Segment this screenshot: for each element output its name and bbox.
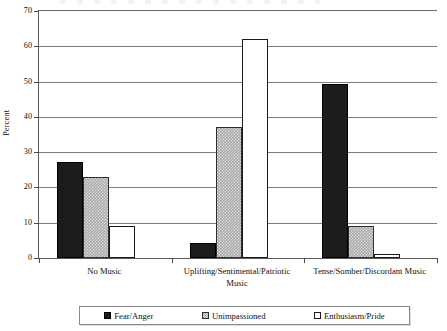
y-axis-tick-label: 0 <box>10 254 32 262</box>
x-axis-label-line: Tense/Somber/Discordant Music <box>289 266 447 278</box>
legend-label: Fear/Anger <box>114 311 153 321</box>
x-axis-tick <box>304 258 305 263</box>
y-axis-tick-label: 50 <box>10 78 32 86</box>
y-axis-tick-label-wrap: 70 <box>10 11 32 12</box>
bar-3-3 <box>374 254 400 258</box>
legend-item-3[interactable]: Enthusiasm/Pride <box>314 311 385 321</box>
y-axis-tick-label-wrap: 20 <box>10 187 32 188</box>
legend-label: Enthusiasm/Pride <box>324 311 385 321</box>
y-axis-tick <box>34 11 39 12</box>
gridline <box>39 117 437 118</box>
legend-item-2[interactable]: Unimpassioned <box>202 311 265 321</box>
y-axis-tick <box>34 117 39 118</box>
x-axis-label-line: Music <box>157 278 318 290</box>
x-axis-category-label-3: Tense/Somber/Discordant Music <box>289 266 447 278</box>
bar-3-1 <box>322 84 348 258</box>
x-axis-tick <box>172 258 173 263</box>
chart-legend: Fear/AngerUnimpassionedEnthusiasm/Pride <box>79 306 410 325</box>
y-axis-tick-label: 20 <box>10 183 32 191</box>
legend-swatch-icon <box>314 312 321 319</box>
bar-2-2 <box>216 127 242 258</box>
y-axis-tick-label: 30 <box>10 148 32 156</box>
bar-chart: Percent 010203040506070 No MusicUpliftin… <box>0 0 447 331</box>
y-axis-tick-label: 10 <box>10 219 32 227</box>
bar-1-2 <box>83 177 109 259</box>
y-axis-tick-label-wrap: 60 <box>10 46 32 47</box>
bar-1-3 <box>109 226 135 258</box>
legend-swatch-icon <box>104 312 111 319</box>
y-axis-tick-label: 40 <box>10 113 32 121</box>
gridline <box>39 46 437 47</box>
y-axis-tick <box>34 46 39 47</box>
y-axis-tick-label: 60 <box>10 42 32 50</box>
bar-3-2 <box>348 226 374 258</box>
x-axis-tick <box>437 258 438 263</box>
y-axis-tick-label-wrap: 0 <box>10 258 32 259</box>
y-axis-tick-label-wrap: 40 <box>10 117 32 118</box>
y-axis-tick-label-wrap: 10 <box>10 223 32 224</box>
y-axis-tick <box>34 223 39 224</box>
bar-2-3 <box>242 39 268 258</box>
x-axis-tick <box>39 258 40 263</box>
y-axis-tick-label: 70 <box>10 7 32 15</box>
legend-label: Unimpassioned <box>212 311 265 321</box>
legend-swatch-icon <box>202 312 209 319</box>
y-axis-tick-label-wrap: 50 <box>10 82 32 83</box>
bar-2-1 <box>190 243 216 258</box>
gridline <box>39 82 437 83</box>
y-axis-tick <box>34 187 39 188</box>
legend-item-1[interactable]: Fear/Anger <box>104 311 153 321</box>
y-axis-title: Percent <box>1 93 11 153</box>
plot-area <box>38 11 437 259</box>
y-axis-tick-label-wrap: 30 <box>10 152 32 153</box>
bar-1-1 <box>57 162 83 258</box>
y-axis-tick <box>34 82 39 83</box>
y-axis-tick <box>34 152 39 153</box>
cropped-title-sliver <box>60 0 320 4</box>
